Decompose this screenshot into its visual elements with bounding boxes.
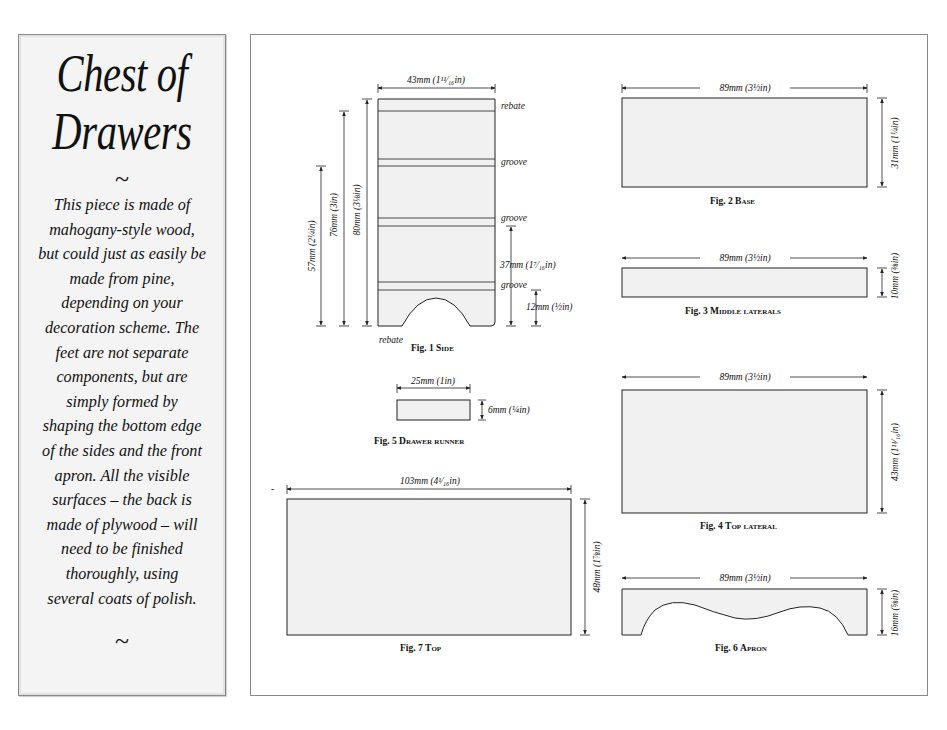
fig1-height-76: 76mm (3in) (329, 193, 340, 237)
fig2-base-piece (622, 98, 867, 187)
fig1-label-groove: groove (501, 157, 527, 167)
fig1-height-57: 57mm (2¼in) (307, 220, 318, 271)
fig1-label-groove: groove (501, 213, 527, 223)
fig5-width-label: 25mm (1in) (411, 376, 455, 387)
fig1-width-label: 43mm (1¹¹⁄₁₆in) (407, 75, 465, 86)
fig7-top: - 103mm (4¹⁄₁₆in) 48mm (1⅞in) Fig. 7 Top (271, 476, 603, 653)
fig7-width-label: 103mm (4¹⁄₁₆in) (400, 476, 460, 487)
fig6-apron-piece (622, 589, 867, 635)
fig5-height-label: 6mm (¼in) (488, 405, 530, 416)
fig1-caption: Fig. 1 Side (411, 343, 454, 353)
fig7-caption: Fig. 7 Top (400, 643, 442, 653)
technical-drawings: 43mm (1¹¹⁄₁₆in) rebate groove groove gro… (0, 0, 947, 730)
fig5-drawer-runner: 25mm (1in) 6mm (¼in) Fig. 5 Drawer runne… (374, 376, 530, 446)
fig4-height-label: 43mm (1¹¹⁄₁₆in) (890, 423, 901, 481)
fig1-dim-12: 12mm (½in) (526, 302, 572, 313)
fig4-width-label: 89mm (3½in) (719, 372, 770, 383)
fig1-label-rebate-bottom: rebate (379, 335, 403, 345)
fig2-base: 89mm (3½in) 31mm (1¼in) Fig. 2 Base (622, 81, 901, 206)
fig4-lateral-piece (622, 390, 867, 513)
fig1-label-groove: groove (501, 280, 527, 290)
fig3-middle-laterals: 89mm (3½in) 10mm (⅜in) Fig. 3 Middle lat… (622, 251, 901, 316)
fig7-side-mark: - (271, 484, 274, 494)
fig4-caption: Fig. 4 Top lateral (700, 521, 777, 531)
fig3-height-label: 10mm (⅜in) (890, 253, 901, 299)
fig3-width-label: 89mm (3½in) (719, 253, 770, 264)
fig7-height-label: 48mm (1⅞in) (592, 541, 603, 592)
fig3-lateral-piece (622, 268, 867, 297)
fig1-label-rebate: rebate (501, 101, 525, 111)
fig6-caption: Fig. 6 Apron (715, 643, 767, 653)
fig1-side-piece (378, 99, 495, 326)
fig6-width-label: 89mm (3½in) (719, 573, 770, 584)
fig5-runner-piece (397, 400, 470, 420)
fig1-height-80: 80mm (3⅛in) (352, 184, 363, 235)
fig7-top-piece (287, 499, 571, 635)
fig2-height-label: 31mm (1¼in) (890, 117, 901, 169)
fig4-top-lateral: 89mm (3½in) 43mm (1¹¹⁄₁₆in) Fig. 4 Top l… (622, 370, 901, 531)
fig5-caption: Fig. 5 Drawer runner (374, 436, 465, 446)
fig2-caption: Fig. 2 Base (710, 196, 755, 206)
fig1-side: 43mm (1¹¹⁄₁₆in) rebate groove groove gro… (307, 75, 572, 353)
fig6-apron: 89mm (3½in) 16mm (⅝in) Fig. 6 Apron (622, 571, 901, 653)
fig1-dim-37: 37mm (1⁷⁄₁₆in) (499, 260, 556, 271)
fig2-width-label: 89mm (3½in) (719, 83, 770, 94)
fig6-height-label: 16mm (⅝in) (890, 590, 901, 636)
fig3-caption: Fig. 3 Middle laterals (685, 306, 781, 316)
